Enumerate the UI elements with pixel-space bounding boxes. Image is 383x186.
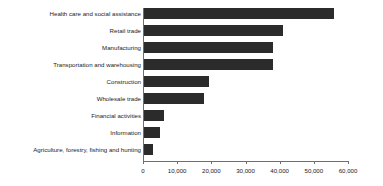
x-axis-tick-label: 0 — [141, 167, 144, 174]
bar — [143, 42, 273, 53]
category-label: Wholesale trade — [0, 95, 141, 102]
category-label: Manufacturing — [0, 44, 141, 51]
x-axis-tick-label: 50,000 — [305, 167, 324, 174]
bar — [143, 25, 283, 36]
y-axis-line — [143, 8, 144, 162]
x-axis-tick — [314, 161, 315, 164]
x-axis-tick — [348, 161, 349, 164]
bar — [143, 59, 273, 70]
category-label: Financial activities — [0, 112, 141, 119]
category-label: Retail trade — [0, 27, 141, 34]
bar — [143, 144, 153, 155]
plot-area — [143, 8, 348, 161]
bar — [143, 8, 334, 19]
x-axis-tick — [143, 161, 144, 164]
x-axis-tick-label: 10,000 — [168, 167, 187, 174]
category-label: Construction — [0, 78, 141, 85]
category-label: Health care and social assistance — [0, 10, 141, 17]
category-label: Information — [0, 129, 141, 136]
bar — [143, 127, 160, 138]
x-axis-tick — [246, 161, 247, 164]
x-axis-tick-label: 20,000 — [202, 167, 221, 174]
category-axis-labels: Health care and social assistanceRetail … — [0, 8, 141, 161]
category-label: Transportation and warehousing — [0, 61, 141, 68]
bar — [143, 76, 209, 87]
x-axis-tick — [280, 161, 281, 164]
x-axis-tick — [211, 161, 212, 164]
bar-chart: Health care and social assistanceRetail … — [0, 0, 383, 186]
x-axis-tick-label: 40,000 — [270, 167, 289, 174]
category-label: Agriculture, forestry, fishing and hunti… — [0, 146, 141, 153]
x-axis-tick — [177, 161, 178, 164]
x-axis-tick-label: 30,000 — [236, 167, 255, 174]
bar — [143, 110, 164, 121]
bar — [143, 93, 204, 104]
x-axis-tick-label: 60,000 — [339, 167, 358, 174]
